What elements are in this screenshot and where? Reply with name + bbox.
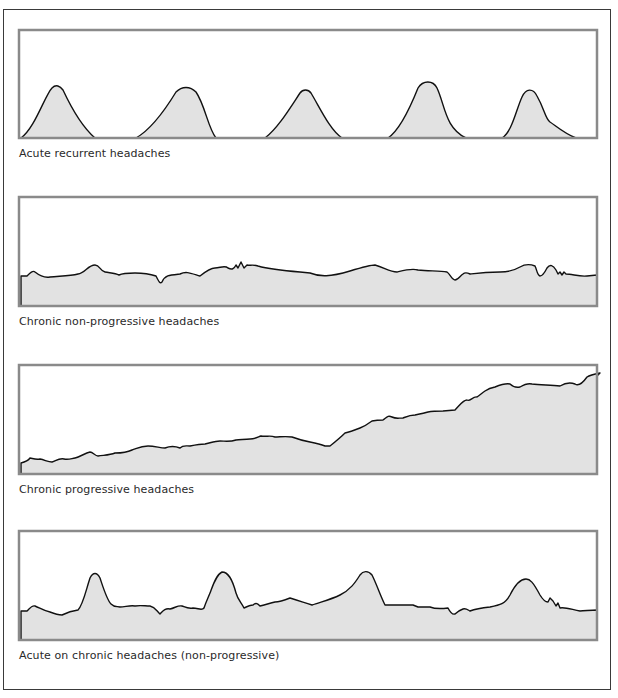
headache-curve-chronic-non-progressive — [21, 262, 597, 306]
panel-acute-recurrent — [19, 30, 597, 138]
caption-chronic-progressive: Chronic progressive headaches — [19, 483, 194, 496]
caption-chronic-non-progressive: Chronic non-progressive headaches — [19, 315, 219, 328]
figure-canvas — [0, 0, 618, 698]
caption-acute-on-chronic: Acute on chronic headaches (non-progress… — [19, 649, 279, 662]
headache-curve-chronic-progressive — [21, 373, 600, 474]
headache-curve-acute-on-chronic — [21, 572, 597, 640]
panel-acute-on-chronic — [19, 531, 597, 640]
headache-curve-acute-recurrent — [21, 82, 576, 138]
caption-acute-recurrent: Acute recurrent headaches — [19, 147, 170, 160]
panel-chronic-progressive — [19, 365, 600, 474]
panel-chronic-non-progressive — [19, 197, 597, 306]
